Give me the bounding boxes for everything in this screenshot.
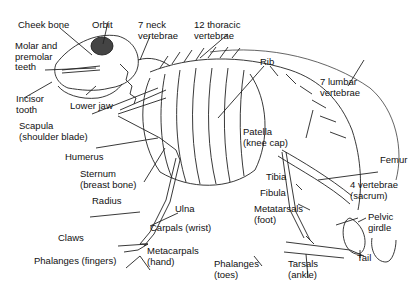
scapula-line1: Scapula xyxy=(19,120,53,131)
label-tarsals: Tarsals(ankle) xyxy=(288,259,318,280)
molar-line1: Molar and xyxy=(15,40,57,51)
label-ulna: Ulna xyxy=(175,204,195,215)
neck-line2: vertebrae xyxy=(138,30,178,41)
pelvic-line2: girdle xyxy=(368,222,391,233)
patella-line1: Patella xyxy=(243,126,272,137)
label-pelvic-girdle: Pelvicgirdle xyxy=(368,212,393,233)
molar-line3: teeth xyxy=(15,61,36,72)
label-sacrum: 4 vertebrae(sacrum) xyxy=(350,180,398,201)
label-tail: Tail xyxy=(357,253,371,264)
patella-line2: (knee cap) xyxy=(243,137,288,148)
orbit-shape xyxy=(91,37,113,55)
label-orbit: Orbit xyxy=(92,20,113,31)
sternum-line1: Sternum xyxy=(80,168,116,179)
label-claws: Claws xyxy=(58,233,84,244)
label-carpals: Carpals (wrist) xyxy=(150,223,211,234)
lumbar-line1: 7 lumbar xyxy=(320,76,357,87)
label-radius: Radius xyxy=(92,196,122,207)
label-phalanges-fingers: Phalanges (fingers) xyxy=(34,256,116,267)
tarsals-line1: Tarsals xyxy=(288,258,318,269)
scapula-line2: (shoulder blade) xyxy=(19,131,88,142)
incisor-line2: tooth xyxy=(16,104,37,115)
sacrum-line1: 4 vertebrae xyxy=(350,179,398,190)
metacarpals-line2: (hand) xyxy=(147,256,174,267)
label-humerus: Humerus xyxy=(65,152,104,163)
thoracic-line2: vertebrae xyxy=(194,30,234,41)
label-neck-vertebrae: 7 neckvertebrae xyxy=(138,20,178,41)
label-rib: Rib xyxy=(260,57,274,68)
incisor-line1: Incisor xyxy=(16,93,44,104)
label-metacarpals: Metacarpals(hand) xyxy=(147,246,199,267)
phalanges-toes-line2: (toes) xyxy=(214,269,238,280)
thoracic-line1: 12 thoracic xyxy=(194,19,240,30)
neck-line1: 7 neck xyxy=(138,19,166,30)
label-incisor-tooth: Incisortooth xyxy=(16,94,44,115)
sacrum-line2: (sacrum) xyxy=(350,190,387,201)
label-metatarsals: Metatarsals(foot) xyxy=(254,204,303,225)
pelvic-line1: Pelvic xyxy=(368,211,393,222)
phalanges-toes-line1: Phalanges xyxy=(214,258,259,269)
label-molar-teeth: Molar andpremolarteeth xyxy=(15,41,57,73)
sternum-line2: (breast bone) xyxy=(80,179,137,190)
tarsals-line2: (ankle) xyxy=(288,269,317,280)
label-lower-jaw: Lower jaw xyxy=(70,101,113,112)
metatarsals-line2: (foot) xyxy=(254,214,276,225)
label-cheek-bone: Cheek bone xyxy=(18,20,69,31)
label-scapula: Scapula(shoulder blade) xyxy=(19,121,88,142)
label-femur: Femur xyxy=(380,155,407,166)
label-fibula: Fibula xyxy=(260,188,286,199)
label-phalanges-toes: Phalanges(toes) xyxy=(214,259,259,280)
label-thoracic-vertebrae: 12 thoracicvertebrae xyxy=(194,20,240,41)
label-lumbar-vertebrae: 7 lumbarvertebrae xyxy=(320,77,360,98)
skeleton-drawing xyxy=(0,0,419,293)
lumbar-line2: vertebrae xyxy=(320,87,360,98)
label-patella: Patella(knee cap) xyxy=(243,127,288,148)
label-sternum: Sternum(breast bone) xyxy=(80,169,137,190)
metatarsals-line1: Metatarsals xyxy=(254,203,303,214)
metacarpals-line1: Metacarpals xyxy=(147,245,199,256)
molar-line2: premolar xyxy=(15,51,53,62)
label-tibia: Tibia xyxy=(266,172,286,183)
